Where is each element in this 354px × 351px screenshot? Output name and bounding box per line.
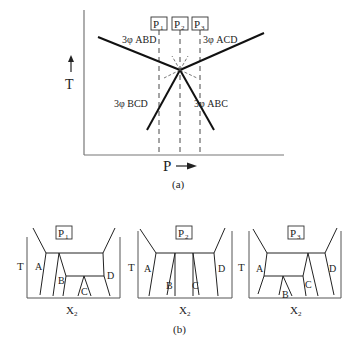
x-axis-label: P xyxy=(163,158,171,174)
svg-text:P: P xyxy=(178,227,184,239)
label-abc: 3φ ABC xyxy=(194,98,228,109)
curve-bcd xyxy=(147,70,180,130)
svg-text:C: C xyxy=(81,286,88,297)
svg-text:D: D xyxy=(107,270,114,281)
p2-marker: P 2 xyxy=(172,17,188,32)
label-bcd: 3φ BCD xyxy=(114,98,148,109)
svg-text:2: 2 xyxy=(74,310,78,318)
svg-text:P: P xyxy=(153,18,159,30)
phase-diagram-figure: T P (a) P 1 P 2 P 3 xyxy=(0,0,354,351)
svg-text:2: 2 xyxy=(298,310,302,318)
svg-text:2: 2 xyxy=(181,24,185,32)
svg-text:D: D xyxy=(329,263,336,274)
svg-text:A: A xyxy=(256,263,264,274)
t-up-arrow-icon xyxy=(68,55,74,72)
label-acd: 3φ ACD xyxy=(203,34,237,45)
svg-text:P: P xyxy=(174,18,180,30)
svg-text:P: P xyxy=(194,18,200,30)
metastable-extensions xyxy=(164,56,197,78)
figure-b-caption: (b) xyxy=(173,323,186,336)
svg-text:2: 2 xyxy=(187,310,191,318)
svg-text:X: X xyxy=(66,304,74,316)
figure-a: T P (a) P 1 P 2 P 3 xyxy=(65,10,284,191)
panel-p3: P 3 T X 2 A B C D xyxy=(238,226,341,318)
svg-text:T: T xyxy=(128,261,135,273)
panel-p1: P 1 T X 2 A B C D xyxy=(17,226,120,318)
svg-text:T: T xyxy=(238,261,245,273)
y-axis-label: T xyxy=(65,77,74,92)
p1-marker: P 1 xyxy=(151,17,167,32)
svg-text:B: B xyxy=(282,289,289,300)
svg-text:X: X xyxy=(179,304,187,316)
svg-text:1: 1 xyxy=(65,233,69,241)
svg-text:D: D xyxy=(218,263,225,274)
svg-text:X: X xyxy=(290,304,298,316)
p-right-arrow-icon xyxy=(176,163,197,170)
panel-p2: P 2 T X 2 A B C D xyxy=(128,226,232,318)
svg-text:P: P xyxy=(290,227,296,239)
svg-text:C: C xyxy=(305,279,312,290)
svg-text:B: B xyxy=(58,275,65,286)
p3-marker: P 3 xyxy=(192,17,208,32)
label-abd: 3φ ABD xyxy=(122,34,156,45)
svg-text:T: T xyxy=(17,260,24,272)
figure-a-caption: (a) xyxy=(172,178,185,191)
svg-text:A: A xyxy=(144,263,152,274)
svg-text:A: A xyxy=(35,261,43,272)
svg-text:3: 3 xyxy=(297,233,301,241)
svg-text:3: 3 xyxy=(201,24,205,32)
svg-text:2: 2 xyxy=(185,233,189,241)
svg-text:1: 1 xyxy=(160,24,164,32)
svg-text:P: P xyxy=(58,227,64,239)
svg-text:B: B xyxy=(166,280,173,291)
svg-text:C: C xyxy=(192,280,199,291)
